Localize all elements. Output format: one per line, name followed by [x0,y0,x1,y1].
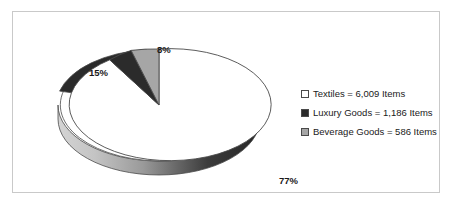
legend-swatch-beverage-goods [301,128,309,136]
legend-item-beverage-goods[interactable]: Beverage Goods = 586 Items [301,122,451,141]
data-label-luxury-goods: 15% [89,67,108,78]
slice-textiles-face [69,49,271,161]
chart-plot-frame: 77% 15% 8% Textiles = 6,009 Items Luxury… [12,11,440,193]
legend-label-luxury-goods: Luxury Goods = 1,186 Items [313,108,433,118]
legend-label-textiles: Textiles = 6,009 Items [313,89,405,99]
pie-top-face [69,49,271,161]
legend-label-beverage-goods: Beverage Goods = 586 Items [313,127,437,137]
data-label-textiles: 77% [279,175,298,186]
legend-item-luxury-goods[interactable]: Luxury Goods = 1,186 Items [301,103,451,122]
legend-item-textiles[interactable]: Textiles = 6,009 Items [301,84,451,103]
data-label-beverage-goods: 8% [157,44,171,55]
legend-swatch-textiles [301,90,309,98]
legend-swatch-luxury-goods [301,109,309,117]
pie-graphic: 77% 15% 8% [43,26,283,186]
chart-legend: Textiles = 6,009 Items Luxury Goods = 1,… [301,84,451,141]
pie-chart-figure: 77% 15% 8% Textiles = 6,009 Items Luxury… [0,0,460,208]
